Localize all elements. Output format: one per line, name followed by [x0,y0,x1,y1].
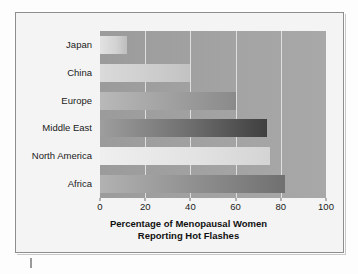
category-label-japan: Japan [66,36,92,54]
x-tick-label-40: 40 [185,201,196,212]
bar-series [100,31,326,198]
category-label-africa: Africa [68,175,92,193]
bar-row [100,64,326,82]
x-axis-ticks: 020406080100 [100,201,326,215]
axis-title: Percentage of Menopausal Women Reporting… [56,218,321,242]
x-tick-label-100: 100 [318,201,334,212]
chart-screenshot: JapanChinaEuropeMiddle EastNorth America… [0,0,358,274]
x-tick-label-80: 80 [276,201,287,212]
plot-area [100,31,326,198]
bar-row [100,147,326,165]
chart-frame: JapanChinaEuropeMiddle EastNorth America… [15,12,344,253]
x-tick-label-20: 20 [140,201,151,212]
category-label-north-america: North America [32,147,92,165]
bar-europe [100,92,236,110]
bar-japan [100,36,127,54]
category-label-middle-east: Middle East [42,119,92,137]
bar-row [100,36,326,54]
bar-north-america [100,147,270,165]
bar-row [100,92,326,110]
bar-china [100,64,190,82]
bar-middle-east [100,119,267,137]
bar-chart: JapanChinaEuropeMiddle EastNorth America… [16,13,343,252]
category-label-europe: Europe [61,92,92,110]
bar-row [100,119,326,137]
x-tick-label-60: 60 [230,201,241,212]
axis-title-line-1: Percentage of Menopausal Women [56,218,321,230]
bar-africa [100,175,285,193]
bar-row [100,175,326,193]
page-margin-tick [30,258,32,268]
axis-title-line-2: Reporting Hot Flashes [56,230,321,242]
category-label-china: China [67,64,92,82]
category-axis-labels: JapanChinaEuropeMiddle EastNorth America… [16,31,96,198]
x-tick-label-0: 0 [97,201,102,212]
